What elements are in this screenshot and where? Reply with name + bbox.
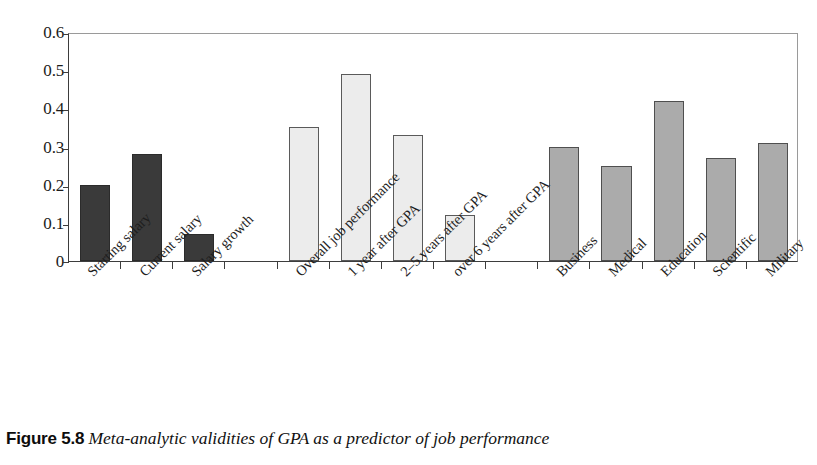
y-axis-tick-label: 0.4: [12, 99, 64, 119]
bar: [758, 143, 788, 261]
figure-caption: Figure 5.8 Meta-analytic validities of G…: [6, 428, 811, 449]
y-axis-tick: [63, 34, 69, 35]
x-axis-labels: Starting salaryCurrent salarySalary grow…: [68, 264, 817, 400]
bar: [393, 135, 423, 261]
y-axis-tick-label: 0.2: [12, 176, 64, 196]
y-axis-tick-label: 0.3: [12, 138, 64, 158]
y-axis-tick-label: 0.5: [12, 61, 64, 81]
y-axis-tick-label: 0: [12, 252, 64, 272]
bar: [654, 101, 684, 261]
y-axis-tick: [63, 72, 69, 73]
y-axis-tick: [63, 149, 69, 150]
y-axis-tick-label: 0.1: [12, 214, 64, 234]
bar: [289, 127, 319, 261]
y-axis: 00.10.20.30.40.50.6: [12, 22, 64, 274]
y-axis-tick: [63, 187, 69, 188]
caption-figure-number: Figure 5.8: [6, 429, 84, 448]
bar-chart: 00.10.20.30.40.50.6 Starting salaryCurre…: [0, 0, 817, 400]
caption-text: Meta-analytic validities of GPA as a pre…: [88, 428, 549, 448]
y-axis-tick-label: 0.6: [12, 23, 64, 43]
figure-container: 00.10.20.30.40.50.6 Starting salaryCurre…: [0, 0, 817, 465]
y-axis-tick: [63, 225, 69, 226]
y-axis-tick: [63, 110, 69, 111]
bar: [549, 147, 579, 262]
